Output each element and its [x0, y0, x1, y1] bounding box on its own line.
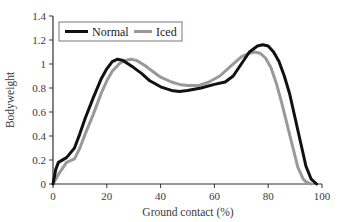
y-tick-label: 0.6	[32, 106, 46, 118]
y-tick-label: 0.4	[32, 130, 46, 142]
x-tick-label: 40	[155, 190, 167, 202]
x-tick-label: 0	[50, 190, 56, 202]
legend-label-iced: Iced	[156, 25, 177, 39]
series-layer	[53, 45, 317, 184]
legend-label-normal: Normal	[92, 25, 129, 39]
x-tick-label: 60	[209, 190, 221, 202]
line-chart: 00.20.40.60.811.21.4 020406080100 Ground…	[0, 0, 347, 222]
y-tick-label: 0.8	[32, 82, 46, 94]
x-tick-label: 20	[101, 190, 113, 202]
y-tick-label: 1.2	[32, 34, 46, 46]
series-line-iced	[53, 52, 311, 184]
legend: Normal Iced	[59, 22, 182, 41]
x-tick-label: 80	[263, 190, 275, 202]
x-axis-ticks: 020406080100	[50, 184, 331, 202]
y-tick-label: 0.2	[32, 154, 46, 166]
y-tick-label: 1.4	[32, 10, 46, 22]
x-tick-label: 100	[314, 190, 331, 202]
y-tick-label: 0	[41, 178, 47, 190]
y-axis-label: Bodyweight	[4, 71, 17, 128]
y-tick-label: 1	[41, 58, 47, 70]
y-axis-ticks: 00.20.40.60.811.21.4	[32, 10, 53, 190]
x-axis-label: Ground contact (%)	[142, 206, 233, 219]
